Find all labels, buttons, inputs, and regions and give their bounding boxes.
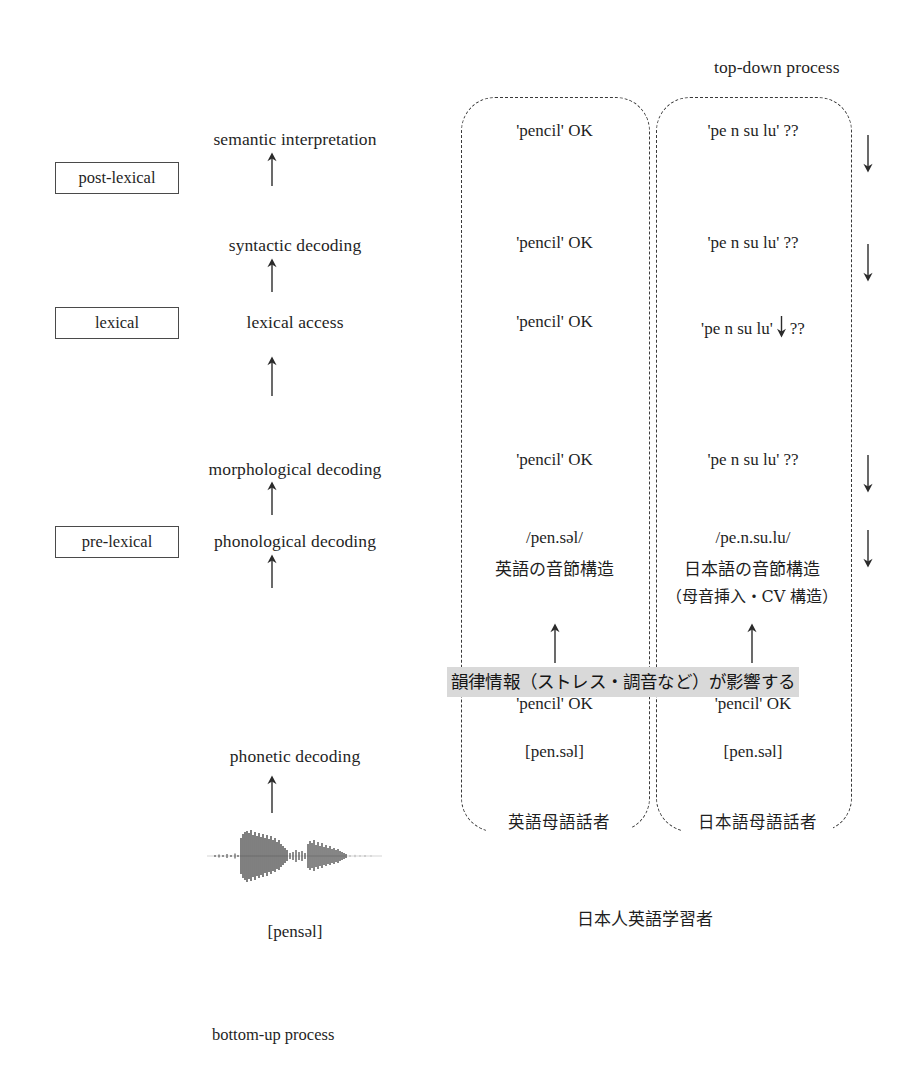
cell-jp-lexical-access-status: ?? (790, 319, 805, 338)
cell-jp-semantic-interpretation: 'pe n su lu' ?? (656, 121, 850, 141)
up-arrow-icon-jp-prosody (744, 623, 760, 663)
cell-en-syntactic-decoding: 'pencil' OK (461, 233, 648, 253)
cell-en-phonetic-ipa: [pen.səl] (461, 742, 648, 762)
stage-label-syntactic-decoding: syntactic decoding (155, 235, 435, 256)
down-arrow-icon-topdown-3 (860, 455, 876, 493)
cell-en-lexical-access: 'pencil' OK (461, 312, 648, 332)
up-arrow-icon-to-lexical-access (264, 356, 280, 396)
cell-jp-phonetic-ipa: [pen.səl] (656, 742, 850, 762)
cell-jp-phonological-note: 日本語の音節構造 (652, 555, 852, 580)
down-arrow-icon-jp-lexical (775, 316, 788, 338)
waveform-transcription: [pensəl] (200, 922, 390, 942)
cell-en-morphological-decoding: 'pencil' OK (461, 450, 648, 470)
cell-jp-phonological-ipa: /pe.n.su.lu/ (656, 528, 850, 548)
cell-jp-phonetic-word: 'pencil' OK (656, 694, 850, 714)
cell-en-phonological-note: 英語の音節構造 (461, 555, 648, 580)
cell-en-phonological-ipa: /pen.səl/ (461, 528, 648, 548)
diagram-canvas: top-down process 英語母語話者 日本語母語話者 post-lex… (0, 0, 910, 1069)
cell-jp-phonological-note-2: （母音挿入・CV 構造） (650, 583, 854, 607)
down-arrow-icon-topdown-4 (860, 530, 876, 568)
cell-en-phonetic-word: 'pencil' OK (461, 694, 648, 714)
up-arrow-icon-to-morphological (264, 481, 280, 515)
down-arrow-icon-topdown-1 (860, 135, 876, 173)
up-arrow-icon-en-prosody (547, 623, 563, 663)
prosody-highlight-note: 韻律情報（ストレス・調音など）が影響する (447, 667, 799, 697)
stage-label-semantic-interpretation: semantic interpretation (155, 129, 435, 150)
stage-label-lexical-access: lexical access (155, 312, 435, 333)
up-arrow-icon-to-phonological (264, 554, 280, 588)
stage-label-morphological-decoding: morphological decoding (155, 459, 435, 480)
down-arrow-icon-topdown-2 (860, 244, 876, 282)
up-arrow-icon-to-semantic (264, 152, 280, 186)
cell-jp-syntactic-decoding: 'pe n su lu' ?? (656, 233, 850, 253)
up-arrow-icon-to-syntactic (264, 258, 280, 292)
speech-waveform (207, 826, 382, 890)
bottom-up-process-label: bottom-up process (212, 1025, 334, 1045)
top-down-process-label: top-down process (714, 57, 840, 78)
cell-en-semantic-interpretation: 'pencil' OK (461, 121, 648, 141)
stage-label-phonological-decoding: phonological decoding (155, 531, 435, 552)
speaker-label-english: 英語母語話者 (486, 809, 632, 833)
stage-label-phonetic-decoding: phonetic decoding (155, 746, 435, 767)
cell-jp-lexical-access: 'pe n su lu' ?? (656, 312, 850, 339)
cell-jp-morphological-decoding: 'pe n su lu' ?? (656, 450, 850, 470)
cell-jp-lexical-access-word: 'pe n su lu' (701, 319, 773, 338)
up-arrow-icon-to-phonetic (264, 775, 280, 813)
level-box-post-lexical: post-lexical (55, 162, 179, 194)
japanese-learner-of-english-label: 日本人英語学習者 (577, 905, 713, 930)
speaker-label-japanese: 日本語母語話者 (681, 809, 833, 833)
